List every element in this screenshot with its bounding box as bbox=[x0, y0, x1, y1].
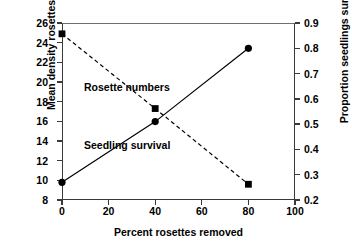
y-axis-right-tick-label: 0.9 bbox=[304, 18, 319, 29]
x-axis-tick-label: 0 bbox=[42, 206, 82, 217]
y-axis-left-tick-label: 20 bbox=[36, 77, 48, 88]
y-axis-left-tick-label: 16 bbox=[36, 116, 48, 127]
y-axis-right-tick bbox=[295, 98, 300, 99]
data-point-seedling-survival bbox=[58, 179, 65, 186]
y-axis-right-tick-label: 0.2 bbox=[304, 195, 319, 206]
x-axis-tick-label: 40 bbox=[135, 206, 175, 217]
plot-area bbox=[62, 23, 295, 200]
y-axis-right-tick-label: 0.6 bbox=[304, 94, 319, 105]
y-axis-left-tick-label: 14 bbox=[36, 136, 48, 147]
data-series-layer bbox=[62, 23, 295, 200]
y-axis-right-tick bbox=[295, 22, 300, 23]
y-axis-right-tick-label: 0.5 bbox=[304, 119, 319, 130]
y-axis-left-tick-label: 26 bbox=[36, 18, 48, 29]
y-axis-right-tick-label: 0.7 bbox=[304, 69, 319, 80]
y-axis-title-right: Proportion seedlings surviving bbox=[338, 0, 350, 136]
y-axis-right-tick bbox=[295, 149, 300, 150]
y-axis-left-tick-label: 12 bbox=[36, 156, 48, 167]
y-axis-left-tick-label: 18 bbox=[36, 97, 48, 108]
data-point-rosette-numbers bbox=[152, 105, 159, 112]
data-point-seedling-survival bbox=[152, 118, 159, 125]
x-axis-tick-label: 100 bbox=[275, 206, 315, 217]
x-axis-title: Percent rosettes removed bbox=[62, 226, 295, 238]
chart-figure: Mean density rosettes/m2 Proportion seed… bbox=[0, 0, 352, 249]
series-annotation-seedling-survival: Seedling survival bbox=[84, 139, 170, 151]
y-axis-right-tick bbox=[295, 73, 300, 74]
y-axis-right-tick bbox=[295, 174, 300, 175]
y-axis-right-tick bbox=[295, 199, 300, 200]
y-axis-left-tick-label: 24 bbox=[36, 38, 48, 49]
y-axis-left-tick-label: 22 bbox=[36, 57, 48, 68]
y-axis-left-tick-label: 10 bbox=[36, 175, 48, 186]
y-axis-right-tick-label: 0.4 bbox=[304, 144, 319, 155]
data-point-rosette-numbers bbox=[59, 30, 66, 37]
y-axis-right-tick-label: 0.3 bbox=[304, 170, 319, 181]
series-annotation-rosette-numbers: Rosette numbers bbox=[84, 81, 170, 93]
y-axis-left-tick-label: 8 bbox=[42, 195, 48, 206]
y-axis-right-tick bbox=[295, 48, 300, 49]
y-axis-right-tick bbox=[295, 123, 300, 124]
y-axis-right-tick-label: 0.8 bbox=[304, 43, 319, 54]
x-axis-tick-label: 20 bbox=[89, 206, 129, 217]
x-axis-tick-label: 60 bbox=[182, 206, 222, 217]
data-point-seedling-survival bbox=[245, 45, 252, 52]
data-point-rosette-numbers bbox=[245, 181, 252, 188]
x-axis-tick-label: 80 bbox=[228, 206, 268, 217]
